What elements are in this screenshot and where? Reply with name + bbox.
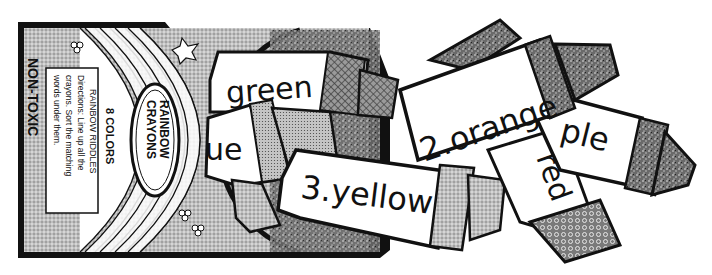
count-label: 8 COLORS xyxy=(104,108,116,164)
crayon-box-illustration: RAINBOW RIDDLES Directions: Line up all … xyxy=(0,0,712,275)
directions-line-1: Directions: Line up all the xyxy=(76,75,86,171)
directions-line-2: crayons. Sort the matching xyxy=(64,75,74,176)
crayon-label-blue: ue xyxy=(205,132,242,167)
non-toxic-label: NON-TOXIC xyxy=(25,58,41,136)
directions-line-3: words under them. xyxy=(52,74,62,145)
panel-title: RAINBOW RIDDLES xyxy=(88,89,98,174)
brand-line-2: CRAYONS xyxy=(144,100,158,159)
brand-line-1: RAINBOW xyxy=(157,100,171,159)
